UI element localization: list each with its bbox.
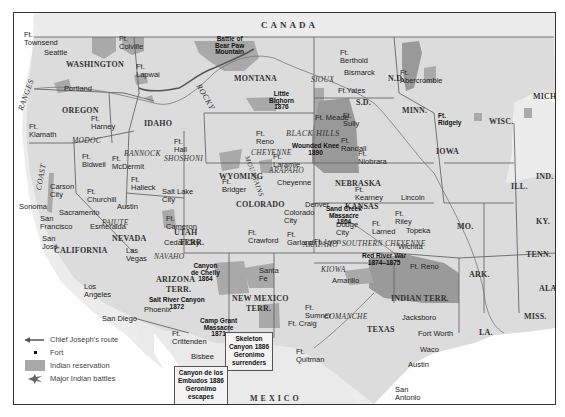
battle-little-bighorn: Little Bighorn 1876	[269, 91, 294, 111]
place-ft-townsend: Ft. Townsend	[24, 31, 58, 46]
label-wisconsin: WISC.	[489, 118, 513, 126]
place-ft-lapwai: Ft. Lapwai	[136, 63, 160, 78]
place-austin-tx: Austin	[408, 361, 429, 369]
place-bismarck: Bismarck	[344, 69, 375, 77]
label-arizona-terr: TERR.	[166, 286, 191, 294]
battle-red-river: Red River War 1874–1875	[362, 253, 406, 266]
reservation-swatch	[24, 360, 46, 371]
label-illinois: ILL.	[511, 183, 528, 191]
label-indiana: IND.	[536, 173, 553, 181]
label-canada: CANADA	[261, 21, 318, 30]
fort-icon	[24, 351, 46, 354]
place-ft-craig: Ft. Craig	[288, 320, 317, 328]
tribe-kiowa: KIOWA	[321, 266, 346, 274]
legend-item-reservation: Indian reservation	[24, 359, 144, 372]
place-ft-reno-ok: Ft. Reno	[410, 263, 439, 271]
map-frame: CANADA MEXICO WASHINGTON OREGON CALIFORN…	[13, 12, 556, 405]
legend-label: Fort	[50, 348, 63, 357]
place-ft-bidwell: Ft. Bidwell	[82, 153, 106, 168]
place-ft-mcdermit: Ft. McDermit	[112, 155, 144, 170]
place-ft-sully: Ft. Sully	[343, 112, 359, 127]
place-fort-worth: Fort Worth	[418, 330, 453, 338]
label-washington: WASHINGTON	[66, 61, 124, 69]
place-ft-kearney: Ft. Kearney	[355, 186, 383, 201]
label-new-mexico: NEW MEXICO	[232, 295, 289, 303]
label-colorado: COLORADO	[236, 201, 285, 209]
place-sonoma: Sonoma	[19, 203, 47, 211]
place-san-diego: San Diego	[102, 315, 137, 323]
place-waco: Waco	[420, 346, 439, 354]
place-ft-hall: Ft. Hall	[174, 138, 187, 153]
label-mexico: MEXICO	[250, 395, 302, 403]
label-iowa: IOWA	[436, 148, 459, 156]
place-esmeralda: Esmeralda	[90, 223, 126, 231]
place-colorado-city: Colorado City	[284, 209, 314, 224]
label-minnesota: MINN.	[402, 107, 427, 115]
place-amarillo: Amarillo	[332, 277, 359, 285]
callout-skeleton-canyon: Skeleton Canyon 1886 Geronimo surrenders	[225, 332, 273, 371]
arrow-icon	[24, 336, 46, 344]
legend-label: Major Indian battles	[50, 374, 115, 383]
place-ft-niobrara: Ft. Niobrara	[358, 150, 387, 165]
battle-bear-paw: Battle of Bear Paw Mountain	[215, 36, 244, 56]
label-louisiana: LA.	[479, 329, 493, 337]
label-south-dakota: S.D.	[356, 99, 371, 107]
place-jacksboro: Jacksboro	[402, 314, 436, 322]
label-tennessee: TENN.	[526, 251, 551, 259]
legend-item-route: Chief Joseph's route	[24, 333, 144, 346]
label-black-hills: BLACK HILLS	[286, 130, 340, 138]
place-ft-halleck: Ft. Halleck	[131, 176, 156, 191]
place-lincoln: Lincoln	[401, 194, 425, 202]
label-nevada: NEVADA	[112, 235, 146, 243]
label-california: CALIFORNIA	[54, 247, 108, 255]
place-ft-reno-wy: Ft. Reno	[256, 130, 274, 145]
label-missouri: MO.	[457, 223, 473, 231]
place-ft-riley: Ft. Riley	[395, 210, 412, 225]
place-ft-harney: Ft. Harney	[91, 115, 115, 130]
place-ft-quitman: Ft. Quitman	[296, 348, 324, 363]
legend-item-battle: Major Indian battles	[24, 372, 144, 385]
battle-sand-creek: Sand Creek Massacre 1864	[326, 206, 362, 226]
place-ft-lyon: Ft. Lyon	[314, 238, 341, 246]
place-bisbee: Bisbee	[191, 353, 214, 361]
place-salt-lake-city: Salt Lake City	[162, 188, 193, 203]
place-ft-garland: Ft. Garland	[287, 231, 314, 246]
label-alabama: ALA.	[539, 285, 556, 293]
label-mississippi: MISS.	[524, 313, 547, 321]
place-seattle: Seattle	[44, 49, 67, 57]
place-austin-nv: Austin	[117, 203, 138, 211]
place-las-vegas: Las Vegas	[126, 247, 147, 262]
place-san-jose: San José	[42, 235, 58, 250]
label-arizona: ARIZONA	[156, 276, 195, 284]
legend-label: Indian reservation	[50, 361, 110, 370]
battle-icon	[24, 374, 46, 384]
battle-canyon-de-chelly: Canyon de Chelly 1864	[191, 263, 220, 283]
place-ft-crawford: Ft. Crawford	[248, 229, 278, 244]
legend-item-fort: Fort	[24, 346, 144, 359]
place-carson-city: Carson City	[50, 183, 74, 198]
place-san-antonio: San Antonio	[395, 386, 420, 401]
label-kentucky: KY.	[536, 218, 550, 226]
place-ft-larned: Ft. Larned	[372, 220, 395, 235]
place-portland: Portland	[64, 85, 92, 93]
place-ft-bridger: Ft. Bridger	[222, 178, 246, 193]
tribe-sioux: SIOUX	[311, 76, 334, 84]
place-los-angeles: Los Angeles	[84, 283, 111, 298]
tribe-navaho: NAVAHO	[154, 253, 184, 261]
tribe-shoshoni: SHOSHONI	[164, 155, 203, 163]
place-san-francisco: San Francisco	[40, 215, 73, 230]
label-michigan: MICH.	[533, 93, 556, 101]
place-ft-sumner: Ft. Sumner	[305, 304, 331, 319]
label-arkansas: ARK.	[469, 271, 490, 279]
place-wichita: Wichita	[398, 243, 423, 251]
label-new-mexico-terr: TERR.	[246, 305, 271, 313]
place-santa-fe: Santa Fe	[259, 267, 279, 282]
place-ft-abercrombie: Ft. Abercrombie	[400, 69, 443, 84]
label-idaho: IDAHO	[144, 120, 172, 128]
place-cheyenne: Cheyenne	[277, 179, 311, 187]
label-montana: MONTANA	[234, 75, 277, 83]
place-ft-colville: Ft. Colville	[119, 35, 143, 50]
battle-salt-river-canyon: Salt River Canyon 1872	[149, 297, 205, 310]
legend: Chief Joseph's route Fort Indian reserva…	[24, 333, 144, 385]
place-ft-churchill: Ft. Churchill	[87, 188, 116, 203]
